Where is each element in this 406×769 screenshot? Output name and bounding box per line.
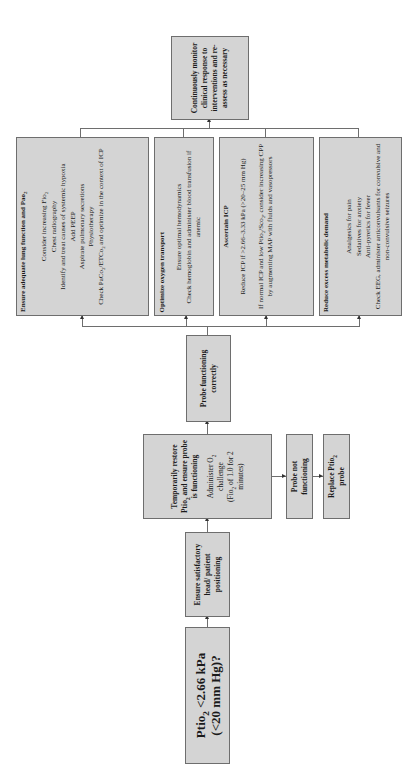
start-condition-box: Ptio2 <2.66 kPa (<20 mm Hg)?: [185, 627, 230, 764]
metabolic-item: Anti-pyretics for fever: [364, 141, 373, 312]
connector: [80, 128, 81, 137]
restore-probe-box: Temporarily restore Ptio2 and ensure pro…: [143, 434, 272, 519]
lung-item: Consider increasing Fio2: [40, 141, 49, 312]
probe-functioning-box: Probe functioning correctly: [186, 335, 231, 422]
lung-item: Check PaCo2/ETCo2 and optimize in the co…: [97, 141, 106, 312]
lung-item: Aspirate pulmonary secretions: [78, 141, 87, 312]
icp-title: Ascertain ICP: [222, 143, 231, 310]
monitor-text: Continuously monitor clinical response t…: [190, 39, 230, 117]
lung-item: Identify and treat causes of systemic hy…: [59, 141, 68, 312]
restore-title: Temporarily restore Ptio2 and ensure pro…: [170, 440, 200, 513]
bus-top: [80, 128, 358, 129]
icp-box: Ascertain ICP Reduce ICP if >2.66–3.33 k…: [219, 137, 314, 316]
oxygen-title: Optimize oxygen transport: [157, 141, 166, 312]
oxygen-item: Check hemoglobin and administer blood tr…: [184, 141, 203, 312]
lung-item: Chest radiography: [50, 141, 59, 312]
connector: [183, 128, 184, 137]
replace-probe-text: Replace Ptio2 probe: [327, 446, 347, 507]
metabolic-item: Sedatives for anxiety: [355, 141, 364, 312]
metabolic-item: Analgesics for pain: [345, 141, 354, 312]
positioning-box: Ensure satisfactory head/ patient positi…: [185, 532, 230, 617]
icp-item: Reduce ICP if >2.66–3.33 kPa (>20–25 mm …: [239, 143, 248, 310]
connector: [358, 128, 359, 137]
metabolic-item: Check EEG, administer anticonvulsants fo…: [374, 141, 393, 312]
restore-body-detail: (Fio2 of 1.0 for 2 minutes): [226, 440, 246, 513]
lung-title: Ensure adequate lung function and Pao2: [19, 141, 28, 312]
lung-item: Add PEEP: [69, 141, 78, 312]
oxygen-transport-box: Optimize oxygen transport Ensure optimal…: [154, 137, 214, 316]
oxygen-item: Ensure optimal hemodynamics: [174, 141, 183, 312]
replace-probe-box: Replace Ptio2 probe: [323, 434, 350, 519]
metabolic-title: Reduce excess metabolic demand: [322, 141, 331, 312]
probe-functioning-text: Probe functioning correctly: [199, 341, 219, 416]
positioning-text: Ensure satisfactory head/ patient positi…: [193, 536, 223, 613]
restore-body: Administer O2 challenge: [206, 440, 226, 513]
icp-item: If normal ICP and low Ptio2/Sco2, consid…: [257, 143, 276, 310]
start-line1: Ptio2 <2.66 kPa: [193, 627, 208, 764]
probe-not-functioning-text: Probe not functioning: [290, 446, 310, 507]
lung-item: Physiotherapy: [87, 141, 96, 312]
lung-function-box: Ensure adequate lung function and Pao2 C…: [16, 137, 149, 316]
connector: [207, 326, 208, 335]
bus-bottom: [82, 326, 360, 327]
probe-not-functioning-box: Probe not functioning: [286, 434, 313, 519]
start-line2: (<20 mm Hg)?: [208, 627, 223, 764]
metabolic-demand-box: Reduce excess metabolic demand Analgesic…: [319, 137, 402, 316]
connector: [265, 128, 266, 137]
monitor-box: Continuously monitor clinical response t…: [171, 36, 249, 120]
